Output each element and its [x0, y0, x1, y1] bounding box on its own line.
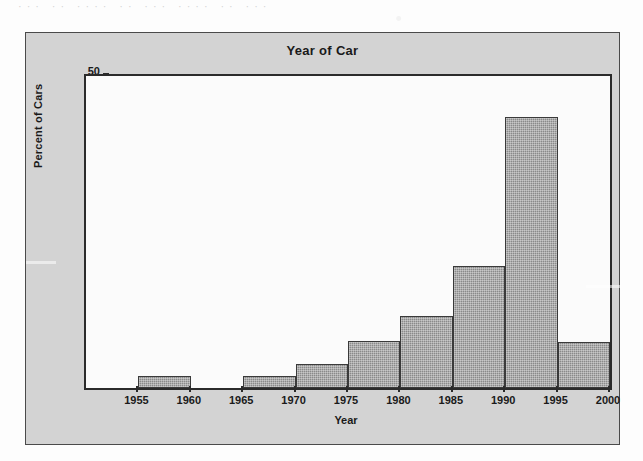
x-tick-mark — [556, 386, 558, 392]
histogram-bar — [348, 341, 400, 388]
x-tick-mark — [451, 386, 453, 392]
plot-area — [84, 74, 612, 390]
histogram-bar — [505, 117, 557, 388]
page-top-bleed-text: ··· ·· ···· ·· ··· ···· ·· ··· — [18, 0, 628, 18]
x-tick-label: 1970 — [281, 395, 305, 406]
x-tick-mark — [503, 386, 505, 392]
chart-title: Year of Car — [26, 43, 619, 58]
x-tick-mark — [346, 386, 348, 392]
histogram-bar — [400, 316, 452, 388]
x-tick-label: 1975 — [334, 395, 358, 406]
x-tick-mark — [241, 386, 243, 392]
histogram-bars — [86, 76, 610, 388]
x-tick-mark — [189, 386, 191, 392]
x-tick-mark — [136, 386, 138, 392]
x-tick-mark — [294, 386, 296, 392]
x-tick-label: 1995 — [543, 395, 567, 406]
x-tick-label: 1985 — [439, 395, 463, 406]
x-axis-title: Year — [84, 414, 608, 426]
histogram-bar — [558, 342, 610, 388]
x-tick-mark — [398, 386, 400, 392]
x-tick-label: 1990 — [491, 395, 515, 406]
x-tick-label: 2000 — [596, 395, 620, 406]
x-tick-mark — [608, 386, 610, 392]
x-tick-label: 1980 — [386, 395, 410, 406]
histogram-bar — [296, 364, 348, 388]
scanned-page: ··· ·· ···· ·· ··· ···· ·· ··· Year of C… — [0, 0, 643, 461]
histogram-bar — [453, 266, 505, 388]
x-tick-label: 1955 — [124, 395, 148, 406]
x-tick-label: 1960 — [177, 395, 201, 406]
x-tick-label: 1965 — [229, 395, 253, 406]
chart-frame: Year of Car Percent of Cars 01020304050 … — [25, 32, 620, 445]
